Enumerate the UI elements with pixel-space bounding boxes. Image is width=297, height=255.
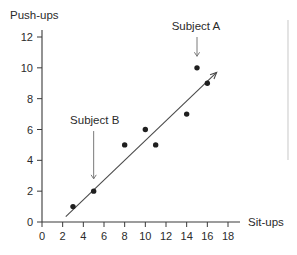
annotation-label: Subject B	[70, 114, 120, 126]
x-tick-label: 0	[39, 230, 45, 242]
data-point-group	[70, 65, 210, 209]
data-point	[143, 127, 148, 132]
axis-title-group: Push-upsSit-ups	[10, 9, 284, 228]
x-tick-group: 024681012141618	[39, 222, 234, 242]
data-point	[205, 81, 210, 86]
data-point	[194, 65, 199, 70]
scatter-plot: 024681012141618 024681012 Subject ASubje…	[0, 0, 297, 255]
x-tick-label: 8	[122, 230, 128, 242]
data-point	[122, 142, 127, 147]
annotation-group: Subject ASubject B	[70, 20, 221, 179]
y-tick-label: 4	[27, 154, 33, 166]
y-tick-label: 2	[27, 185, 33, 197]
data-point	[153, 142, 158, 147]
y-tick-label: 8	[27, 93, 33, 105]
y-tick-label: 12	[21, 31, 33, 43]
x-tick-label: 12	[160, 230, 172, 242]
x-axis-title: Sit-ups	[248, 216, 284, 228]
x-tick-label: 18	[222, 230, 234, 242]
trend-line-group	[66, 72, 217, 216]
x-tick-label: 2	[60, 230, 66, 242]
y-tick-label: 6	[27, 124, 33, 136]
x-tick-label: 16	[201, 230, 213, 242]
trend-line	[66, 72, 217, 216]
annotation-label: Subject A	[172, 20, 221, 32]
data-point	[70, 204, 75, 209]
x-tick-label: 14	[181, 230, 193, 242]
chart-page: 024681012141618 024681012 Subject ASubje…	[0, 0, 297, 255]
x-tick-label: 6	[101, 230, 107, 242]
x-tick-label: 10	[139, 230, 151, 242]
y-tick-group: 024681012	[21, 31, 42, 228]
y-tick-label: 10	[21, 62, 33, 74]
y-tick-label: 0	[27, 216, 33, 228]
data-point	[91, 188, 96, 193]
data-point	[184, 111, 189, 116]
y-axis-title: Push-ups	[10, 9, 59, 21]
x-tick-label: 4	[80, 230, 86, 242]
